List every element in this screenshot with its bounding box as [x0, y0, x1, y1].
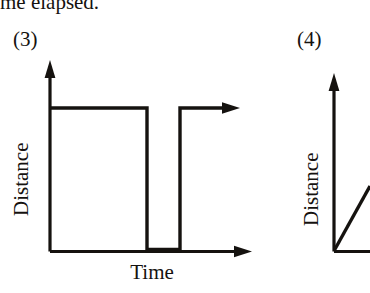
figure-3-distance-curve — [50, 108, 224, 250]
figure-3-y-axis-arrowhead — [45, 60, 56, 78]
figure-4-distance-line — [335, 186, 370, 250]
figure-3-curve-arrowhead — [222, 102, 240, 113]
figure-page: me elapsed. (3) (4) Distance Time Distan… — [0, 0, 370, 293]
figure-4-y-axis-arrowhead — [329, 73, 340, 91]
figure-4-plot — [329, 73, 370, 252]
figure-3-x-axis-arrowhead — [234, 246, 252, 257]
figure-drawings — [0, 0, 370, 293]
figure-3-plot — [45, 60, 252, 257]
